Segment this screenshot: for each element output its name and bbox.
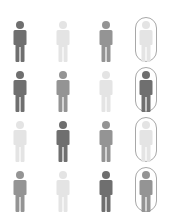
person-icon[interactable]: [134, 120, 158, 166]
person-icon[interactable]: [134, 170, 158, 215]
person-icon[interactable]: [51, 20, 75, 66]
person-icon[interactable]: [8, 20, 32, 66]
person-icon[interactable]: [51, 120, 75, 166]
person-icon[interactable]: [134, 20, 158, 66]
person-icon[interactable]: [51, 170, 75, 215]
person-icon[interactable]: [94, 170, 118, 215]
person-icon[interactable]: [8, 170, 32, 215]
person-icon[interactable]: [51, 70, 75, 116]
person-grid: [0, 0, 170, 215]
person-icon[interactable]: [8, 70, 32, 116]
person-icon[interactable]: [94, 120, 118, 166]
person-icon[interactable]: [94, 70, 118, 116]
person-icon[interactable]: [94, 20, 118, 66]
person-icon[interactable]: [8, 120, 32, 166]
person-icon[interactable]: [134, 70, 158, 116]
